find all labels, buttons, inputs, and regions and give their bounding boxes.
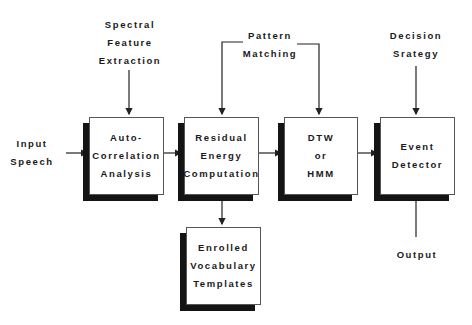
label-pattern-matching: Pattern Matching [240,27,300,63]
box-line: Vocabulary [190,257,257,275]
box-line: DTW [308,129,334,147]
box-face: Residual Energy Computation [184,117,259,195]
label-line: Extraction [92,52,168,70]
box-line: Residual [195,129,247,147]
label-line: Matching [240,45,300,63]
box-line: Computation [183,165,259,183]
box-dtw-or-hmm: DTW or HMM [278,117,358,201]
box-line: Enrolled [198,239,249,257]
arrow-pattern-to-dtw [297,44,319,114]
label-line: Decision [384,27,448,45]
box-enrolled-vocabulary-templates: Enrolled Vocabulary Templates [180,227,261,311]
label-decision-strategy: Decision Srategy [384,27,448,63]
box-event-detector: Event Detector [374,117,455,201]
box-line: Auto- [110,129,143,147]
label-line: Input [4,135,60,153]
label-line: Output [392,246,442,264]
label-input-speech: Input Speech [4,135,60,171]
box-line: Energy [201,147,243,165]
label-output: Output [392,246,442,264]
box-face: DTW or HMM [284,117,358,195]
label-line: Speech [4,153,60,171]
box-autocorrelation-analysis: Auto- Correlation Analysis [83,117,164,201]
label-line: Feature [92,34,168,52]
label-spectral-feature-extraction: Spectral Feature Extraction [92,16,168,70]
box-face: Enrolled Vocabulary Templates [186,227,261,305]
box-line: Analysis [101,165,153,183]
box-line: Event [401,138,435,156]
box-line: HMM [307,165,335,183]
label-line: Srategy [384,45,448,63]
box-line: Correlation [92,147,160,165]
box-line: or [315,147,328,165]
box-line: Detector [392,156,443,174]
box-face: Auto- Correlation Analysis [89,117,164,195]
label-line: Spectral [92,16,168,34]
box-face: Event Detector [380,117,455,195]
label-line: Pattern [240,27,300,45]
box-line: Templates [193,275,254,293]
box-residual-energy-computation: Residual Energy Computation [178,117,259,201]
